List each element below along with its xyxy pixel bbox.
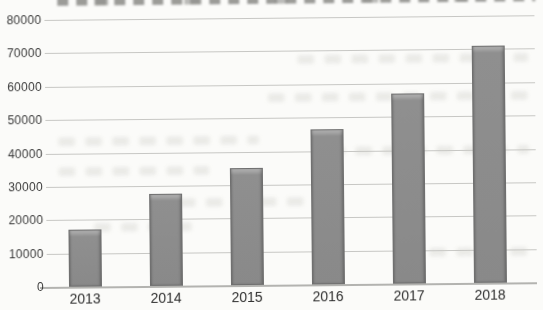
y-axis-tick-label-10000: 10000 xyxy=(0,246,44,262)
scan-tilt-wrapper: 0100002000030000400005000060000700008000… xyxy=(0,0,543,310)
x-axis-category-label-2016: 2016 xyxy=(298,288,358,305)
gridline-10000 xyxy=(47,249,537,255)
x-axis-category-label-2014: 2014 xyxy=(136,290,196,307)
x-axis-category-label-2017: 2017 xyxy=(379,287,439,304)
y-axis-tick-label-70000: 70000 xyxy=(0,45,42,61)
bar-2015 xyxy=(230,168,264,285)
x-axis-category-label-2018: 2018 xyxy=(460,286,520,303)
bar-2016 xyxy=(310,129,344,284)
y-axis-tick-label-50000: 50000 xyxy=(0,112,42,128)
gridline-70000 xyxy=(45,48,535,54)
bar-2018 xyxy=(472,46,507,283)
bar-2013 xyxy=(68,229,102,286)
gridline-20000 xyxy=(46,215,536,221)
y-axis-tick-label-0: 0 xyxy=(0,279,44,295)
y-axis-tick-label-80000: 80000 xyxy=(0,12,42,28)
gridline-30000 xyxy=(46,182,536,188)
gridline-50000 xyxy=(45,115,535,121)
bar-2014 xyxy=(149,194,183,286)
bar-2017 xyxy=(391,93,426,283)
y-axis-tick-label-40000: 40000 xyxy=(0,146,43,162)
scanned-page: 0100002000030000400005000060000700008000… xyxy=(0,0,543,310)
gridline-80000 xyxy=(44,15,534,21)
bar-chart: 0100002000030000400005000060000700008000… xyxy=(0,0,543,310)
x-axis-category-label-2013: 2013 xyxy=(55,290,115,307)
y-axis-tick-label-30000: 30000 xyxy=(0,179,43,195)
gridline-60000 xyxy=(45,82,535,88)
y-axis-tick-label-60000: 60000 xyxy=(0,79,42,95)
gridline-40000 xyxy=(46,149,536,155)
y-axis-tick-label-20000: 20000 xyxy=(0,212,43,228)
x-axis-category-label-2015: 2015 xyxy=(217,289,277,306)
